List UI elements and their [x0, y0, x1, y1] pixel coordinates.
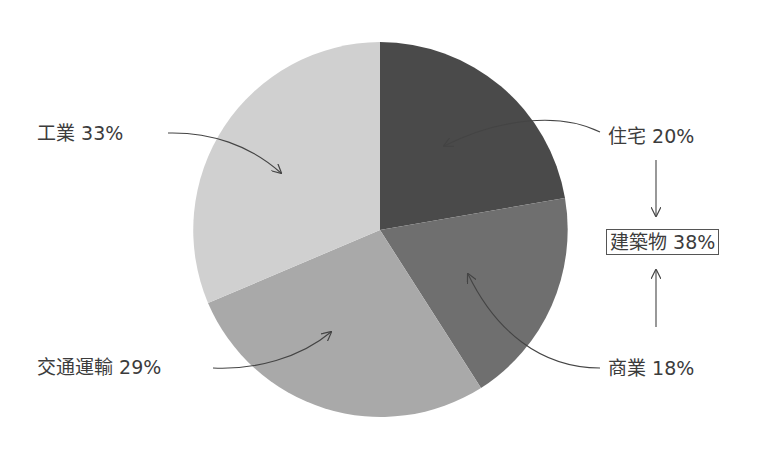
pie-chart [0, 0, 763, 453]
label-transport: 交通運輸 29% [37, 355, 161, 379]
label-commercial: 商業 18% [608, 356, 694, 380]
label-residential: 住宅 20% [608, 124, 694, 148]
label-industrial: 工業 33% [37, 121, 123, 145]
label-buildings-total: 建築物 38% [606, 229, 719, 255]
slice-residential [380, 42, 565, 230]
